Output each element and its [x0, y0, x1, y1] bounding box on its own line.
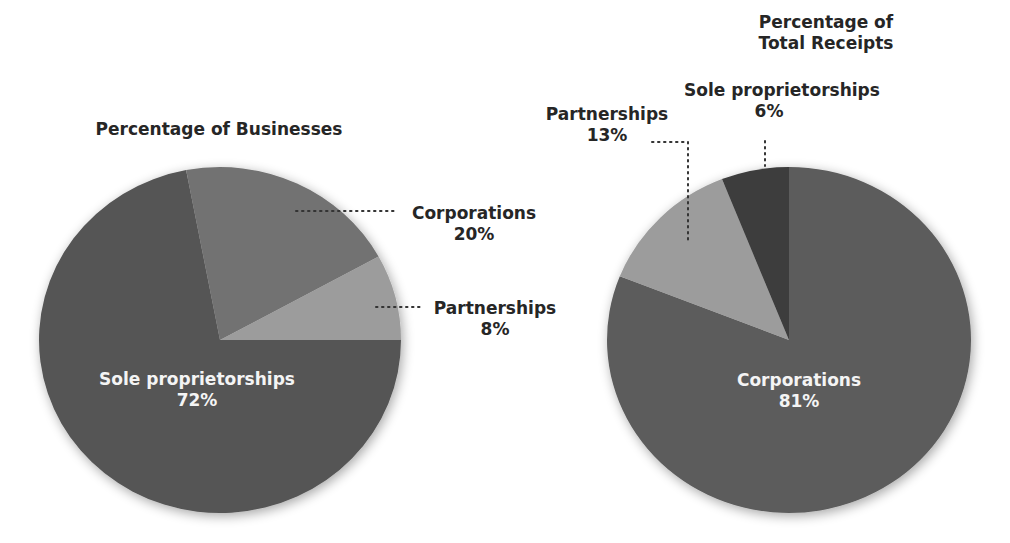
- label-sole-proprietorships: Sole proprietorships 6%: [684, 80, 854, 122]
- label-corporations: Corporations 20%: [398, 203, 550, 245]
- label-name: Sole proprietorships: [684, 80, 854, 101]
- label-name: Corporations: [398, 203, 550, 224]
- title-line-1: Percentage of: [756, 12, 896, 33]
- title-line-2: Total Receipts: [756, 33, 896, 54]
- chart-title-receipts: Percentage of Total Receipts: [756, 12, 896, 54]
- label-name: Sole proprietorships: [72, 369, 322, 390]
- label-partnerships: Partnerships 8%: [421, 298, 569, 340]
- businesses-pie: [39, 167, 401, 513]
- label-name: Partnerships: [533, 104, 681, 125]
- label-pct: 8%: [421, 319, 569, 340]
- label-partnerships: Partnerships 13%: [533, 104, 681, 146]
- label-name: Partnerships: [421, 298, 569, 319]
- label-pct: 20%: [398, 224, 550, 245]
- label-pct: 81%: [724, 391, 874, 412]
- label-pct: 6%: [684, 101, 854, 122]
- chart-title-businesses: Percentage of Businesses: [78, 119, 360, 140]
- receipts-pie: [607, 167, 971, 513]
- label-name: Corporations: [724, 370, 874, 391]
- label-pct: 13%: [533, 125, 681, 146]
- label-pct: 72%: [72, 390, 322, 411]
- label-sole-proprietorships: Sole proprietorships 72%: [72, 369, 322, 411]
- label-corporations: Corporations 81%: [724, 370, 874, 412]
